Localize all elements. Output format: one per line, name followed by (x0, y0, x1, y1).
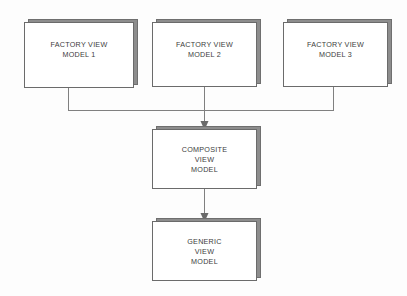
node-face: FACTORY VIEW MODEL 2 (152, 22, 257, 87)
diagram-canvas: FACTORY VIEW MODEL 1 FACTORY VIEW MODEL … (0, 0, 407, 296)
node-label-line: MODEL 1 (62, 50, 95, 60)
node-label-line: VIEW (195, 247, 214, 257)
node-label-line: FACTORY VIEW (176, 40, 233, 50)
node-label-line: MODEL (191, 257, 218, 267)
node-label-line: MODEL 3 (319, 50, 352, 60)
node-label-line: VIEW (195, 155, 214, 165)
node-face: GENERIC VIEW MODEL (152, 221, 257, 281)
node-label-line: GENERIC (187, 237, 222, 247)
connector-factory-1-to-composite (69, 88, 205, 111)
node-face: COMPOSITE VIEW MODEL (152, 129, 257, 189)
node-label-line: FACTORY VIEW (307, 40, 364, 50)
connector-factory-3-to-composite (204, 87, 334, 111)
node-face: FACTORY VIEW MODEL 3 (283, 22, 388, 87)
node-label-line: FACTORY VIEW (51, 40, 108, 50)
node-factory-view-model-1[interactable]: FACTORY VIEW MODEL 1 (24, 22, 134, 88)
node-label-line: MODEL (191, 165, 218, 175)
node-generic-view-model[interactable]: GENERIC VIEW MODEL (152, 221, 257, 281)
node-factory-view-model-2[interactable]: FACTORY VIEW MODEL 2 (152, 22, 257, 87)
node-label-line: COMPOSITE (182, 145, 227, 155)
node-factory-view-model-3[interactable]: FACTORY VIEW MODEL 3 (283, 22, 388, 87)
node-label-line: MODEL 2 (188, 50, 221, 60)
node-composite-view-model[interactable]: COMPOSITE VIEW MODEL (152, 129, 257, 189)
node-face: FACTORY VIEW MODEL 1 (24, 22, 134, 88)
